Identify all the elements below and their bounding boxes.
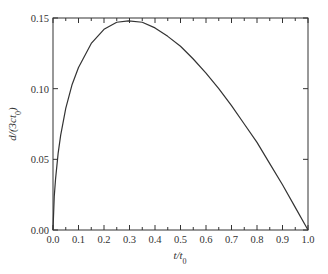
y-tick-label: 0.10 — [31, 84, 49, 95]
plot-frame — [53, 18, 308, 230]
x-tick-label: 0.2 — [97, 234, 110, 245]
y-tick-label: 0.00 — [31, 225, 49, 236]
x-tick-label: 0.4 — [148, 234, 162, 245]
x-tick-label: 0.5 — [174, 234, 187, 245]
y-tick-label: 0.05 — [31, 154, 49, 165]
x-tick-label: 0.7 — [225, 234, 238, 245]
y-axis-ticks: 0.000.050.100.15 — [31, 13, 308, 236]
x-tick-label: 0.9 — [276, 234, 289, 245]
x-tick-label: 0.8 — [250, 234, 263, 245]
y-tick-label: 0.15 — [31, 13, 49, 24]
x-tick-label: 1.0 — [301, 234, 314, 245]
x-tick-label: 0.6 — [199, 234, 212, 245]
line-chart: 0.00.10.20.30.40.50.60.70.80.91.0 0.000.… — [0, 0, 328, 274]
data-series — [53, 21, 308, 230]
x-tick-label: 0.1 — [72, 234, 85, 245]
x-axis-label: t/t0 — [173, 249, 186, 266]
x-tick-label: 0.3 — [123, 234, 136, 245]
y-axis-label: d/(3ct0) — [6, 107, 23, 141]
series-line — [53, 21, 308, 230]
